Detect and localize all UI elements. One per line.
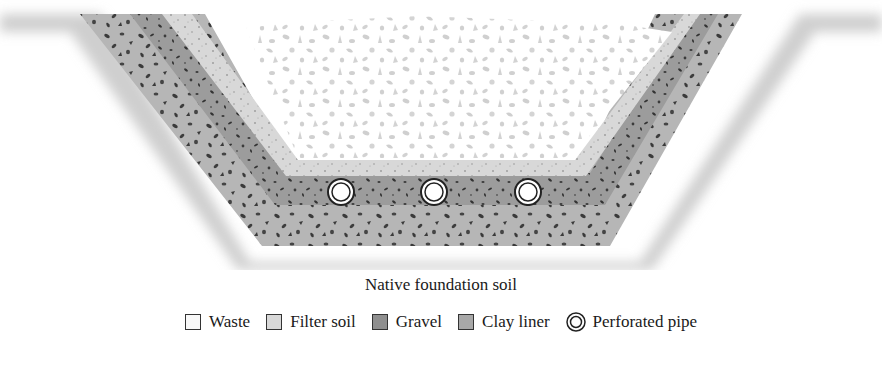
perforated-pipe-icon (566, 312, 586, 332)
legend-label: Clay liner (482, 312, 550, 332)
legend-item-clay-liner: Clay liner (458, 312, 550, 332)
clay-liner-swatch-icon (458, 314, 474, 330)
legend-label: Gravel (396, 312, 442, 332)
pipe-3 (515, 179, 541, 205)
gravel-swatch-icon (372, 314, 388, 330)
legend-item-gravel: Gravel (372, 312, 442, 332)
landfill-cross-section (0, 0, 882, 270)
legend: Waste Filter soil Gravel Clay liner Perf… (0, 312, 882, 332)
pipe-1 (328, 179, 354, 205)
filter-soil-swatch-icon (266, 314, 282, 330)
pipe-2 (421, 179, 447, 205)
legend-item-waste: Waste (185, 312, 250, 332)
waste-swatch-icon (185, 314, 201, 330)
legend-item-filter-soil: Filter soil (266, 312, 356, 332)
legend-label: Filter soil (290, 312, 356, 332)
legend-label: Perforated pipe (593, 312, 697, 332)
legend-item-perforated-pipe: Perforated pipe (566, 312, 697, 332)
native-foundation-soil-label: Native foundation soil (0, 275, 882, 295)
legend-label: Waste (209, 312, 250, 332)
